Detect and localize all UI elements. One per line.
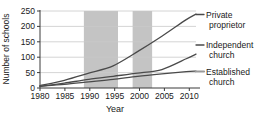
- y-tick-label-250: 250: [21, 6, 35, 16]
- x-tick-label-1985: 1985: [55, 91, 74, 101]
- legend: Private proprietor Independent church Es…: [206, 10, 254, 87]
- legend-label-independent-line1: Independent: [206, 40, 254, 50]
- legend-leaders: [196, 15, 204, 72]
- x-tick-label-1990: 1990: [80, 91, 99, 101]
- chart-container: 250 200 150 100 50 0 1980 1985 1990 1995…: [0, 0, 261, 126]
- legend-label-independent-line2: church: [209, 50, 235, 60]
- y-tick-labels: 250 200 150 100 50 0: [21, 6, 35, 93]
- x-tick-labels: 1980 1985 1990 1995 2000 2005 2010: [31, 91, 199, 101]
- legend-label-private-line1: Private: [206, 10, 233, 20]
- x-axis-title: Year: [106, 104, 124, 114]
- x-tick-label-2010: 2010: [180, 91, 199, 101]
- y-tick-label-150: 150: [21, 37, 35, 47]
- x-tick-label-2000: 2000: [130, 91, 149, 101]
- legend-label-established-line1: Established: [206, 67, 250, 77]
- legend-label-established-line2: church: [209, 77, 235, 87]
- y-tick-label-50: 50: [26, 68, 36, 78]
- line-chart: 250 200 150 100 50 0 1980 1985 1990 1995…: [0, 0, 261, 126]
- y-tick-label-100: 100: [21, 52, 35, 62]
- x-tick-label-1980: 1980: [31, 91, 50, 101]
- legend-label-private-line2: proprietor: [209, 20, 246, 30]
- x-tick-label-2005: 2005: [155, 91, 174, 101]
- y-tick-label-200: 200: [21, 21, 35, 31]
- y-axis-title: Number of schools: [1, 14, 11, 85]
- x-tick-label-1995: 1995: [105, 91, 124, 101]
